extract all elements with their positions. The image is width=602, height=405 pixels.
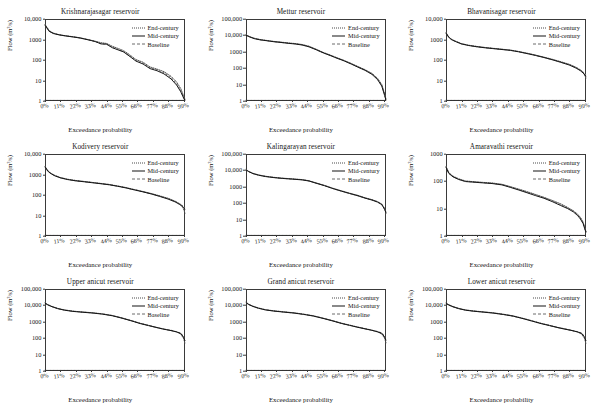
x-axis-tick-label: 22% bbox=[270, 372, 282, 380]
x-axis-tick-label: 44% bbox=[300, 372, 312, 380]
x-axis-tick-label: 88% bbox=[563, 372, 575, 380]
x-axis-tick-label: 88% bbox=[362, 372, 374, 380]
legend-swatch-dotted-icon bbox=[533, 160, 546, 165]
legend-label: Baseline bbox=[148, 311, 170, 318]
plot-area: 110100100010,000100,000End-centuryMid-ce… bbox=[246, 289, 386, 371]
chart-panel: Mettur reservoirFlow (m³/s)110100100010,… bbox=[201, 0, 402, 135]
legend: End-centuryMid-centuryBaseline bbox=[532, 158, 582, 184]
legend-label: End-century bbox=[348, 294, 379, 301]
x-axis-tick-label: 99% bbox=[177, 372, 189, 380]
legend-label: End-century bbox=[549, 24, 580, 31]
axis-dense-marks bbox=[45, 370, 184, 371]
x-axis-ticks: 0%11%22%33%44%55%66%77%88%99% bbox=[446, 238, 586, 254]
plot-area: 110100100010,000100,000End-centuryMid-ce… bbox=[45, 289, 185, 371]
legend-label: End-century bbox=[348, 159, 379, 166]
y-axis-tick-label: 100,000 bbox=[221, 16, 245, 22]
axis-dense-marks bbox=[446, 235, 585, 236]
x-axis-tick-label: 0% bbox=[40, 237, 49, 244]
legend-label: Mid-century bbox=[148, 302, 179, 309]
x-axis-tick-label: 55% bbox=[115, 102, 127, 110]
x-axis-tick-label: 11% bbox=[455, 102, 467, 110]
legend-swatch-dashed-icon bbox=[332, 312, 345, 317]
chart-panel: Kalingarayan reservoirFlow (m³/s)1101001… bbox=[201, 135, 402, 270]
legend-swatch-dotted-icon bbox=[132, 295, 145, 300]
x-axis-tick-label: 77% bbox=[547, 102, 559, 110]
x-axis-tick-label: 11% bbox=[455, 237, 467, 245]
x-axis-ticks: 0%11%22%33%44%55%66%77%88%99% bbox=[246, 373, 386, 389]
legend-label: End-century bbox=[148, 294, 179, 301]
x-axis-tick-label: 44% bbox=[100, 237, 112, 245]
x-axis-tick-label: 66% bbox=[532, 102, 544, 110]
legend-swatch-dotted-icon bbox=[132, 25, 145, 30]
x-axis-label: Exceedance probability bbox=[401, 126, 602, 133]
y-axis-label: Flow (m³/s) bbox=[407, 8, 414, 64]
y-axis-label: Flow (m³/s) bbox=[206, 143, 213, 199]
y-axis-label: Flow (m³/s) bbox=[206, 8, 213, 64]
legend-label: Baseline bbox=[348, 176, 370, 183]
y-axis-tick-label: 100,000 bbox=[422, 286, 446, 292]
plot-area: 110100100010,000End-centuryMid-centuryBa… bbox=[45, 19, 185, 101]
x-axis-tick-label: 99% bbox=[177, 102, 189, 110]
x-axis-tick-label: 99% bbox=[578, 237, 590, 245]
legend-item: End-century bbox=[332, 159, 379, 166]
plot-area: 1101001000End-centuryMid-centuryBaseline bbox=[446, 154, 586, 236]
legend-swatch-dashed-icon bbox=[132, 177, 145, 182]
x-axis-tick-label: 44% bbox=[501, 102, 513, 110]
legend-item: Mid-century bbox=[132, 167, 179, 174]
x-axis-tick-label: 22% bbox=[270, 237, 282, 245]
legend-swatch-dotted-icon bbox=[332, 160, 345, 165]
legend-swatch-solid-icon bbox=[533, 304, 546, 309]
x-axis-tick-label: 44% bbox=[501, 237, 513, 245]
legend: End-centuryMid-centuryBaseline bbox=[331, 158, 381, 184]
x-axis-tick-label: 88% bbox=[563, 102, 575, 110]
axis-dense-marks bbox=[246, 370, 385, 371]
x-axis-tick-label: 33% bbox=[486, 237, 498, 245]
legend-swatch-solid-icon bbox=[332, 304, 345, 309]
legend-item: Baseline bbox=[132, 311, 179, 318]
x-axis-tick-label: 99% bbox=[177, 237, 189, 245]
legend: End-centuryMid-centuryBaseline bbox=[131, 23, 181, 49]
x-axis-tick-label: 99% bbox=[377, 102, 389, 110]
x-axis-ticks: 0%11%22%33%44%55%66%77%88%99% bbox=[45, 238, 185, 254]
legend-item: End-century bbox=[132, 294, 179, 301]
plot-area: 110100100010,000End-centuryMid-centuryBa… bbox=[446, 19, 586, 101]
x-axis-tick-label: 66% bbox=[331, 372, 343, 380]
legend-item: Mid-century bbox=[332, 167, 379, 174]
y-axis-label: Flow (m³/s) bbox=[206, 278, 213, 334]
x-axis-tick-label: 55% bbox=[516, 102, 528, 110]
x-axis-tick-label: 55% bbox=[316, 102, 328, 110]
legend: End-centuryMid-centuryBaseline bbox=[532, 23, 582, 49]
axis-dense-marks bbox=[446, 100, 585, 101]
x-axis-tick-label: 55% bbox=[115, 372, 127, 380]
legend-item: Baseline bbox=[533, 311, 580, 318]
x-axis-tick-label: 44% bbox=[100, 102, 112, 110]
chart-panel: Upper anicut reservoirFlow (m³/s)1101001… bbox=[0, 270, 201, 405]
legend-label: End-century bbox=[148, 159, 179, 166]
legend-item: Mid-century bbox=[132, 32, 179, 39]
legend-swatch-dashed-icon bbox=[533, 312, 546, 317]
x-axis-tick-label: 55% bbox=[115, 237, 127, 245]
legend-item: Mid-century bbox=[332, 32, 379, 39]
axis-dense-marks bbox=[446, 370, 585, 371]
plot-area: 110100100010,000100,000End-centuryMid-ce… bbox=[246, 154, 386, 236]
legend-label: Baseline bbox=[549, 311, 571, 318]
x-axis-tick-label: 11% bbox=[254, 237, 266, 245]
x-axis-tick-label: 77% bbox=[146, 237, 158, 245]
x-axis-label: Exceedance probability bbox=[201, 126, 402, 133]
y-axis-label: Flow (m³/s) bbox=[407, 143, 414, 199]
x-axis-tick-label: 77% bbox=[146, 372, 158, 380]
x-axis-ticks: 0%11%22%33%44%55%66%77%88%99% bbox=[446, 373, 586, 389]
legend-item: End-century bbox=[132, 159, 179, 166]
x-axis-tick-label: 77% bbox=[547, 372, 559, 380]
x-axis-tick-label: 22% bbox=[470, 372, 482, 380]
x-axis-tick-label: 55% bbox=[316, 372, 328, 380]
legend-label: End-century bbox=[549, 159, 580, 166]
chart-panel: Lower anicut reservoirFlow (m³/s)1101001… bbox=[401, 270, 602, 405]
x-axis-tick-label: 44% bbox=[501, 372, 513, 380]
plot-area: 110100100010,000100,000End-centuryMid-ce… bbox=[246, 19, 386, 101]
x-axis-tick-label: 88% bbox=[362, 102, 374, 110]
legend-swatch-solid-icon bbox=[533, 169, 546, 174]
y-axis-tick-label: 100,000 bbox=[21, 286, 45, 292]
figure-grid: Krishnarajasagar reservoirFlow (m³/s)110… bbox=[0, 0, 602, 405]
legend-swatch-solid-icon bbox=[332, 34, 345, 39]
